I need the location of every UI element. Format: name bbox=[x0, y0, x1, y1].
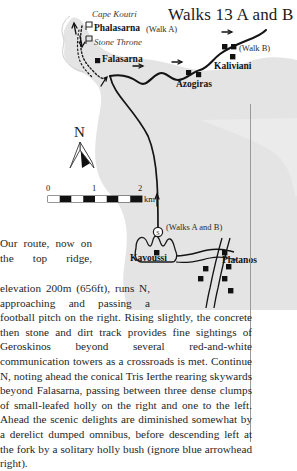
scale-unit-label: km bbox=[144, 195, 155, 204]
scale-tick-0: 0 bbox=[46, 184, 50, 193]
map-label-walk-b: (Walk B) bbox=[239, 44, 270, 53]
map-label-stone-throne: Stone Throne bbox=[94, 38, 142, 47]
map-label-phalasarna: Phalasarna bbox=[94, 24, 140, 34]
map-label-walks-a-and-b: (Walks A and B) bbox=[166, 223, 222, 232]
map-label-azogiras: Azogiras bbox=[176, 80, 212, 90]
route-description-text: Our route, now on the top ridge, elevati… bbox=[0, 236, 252, 471]
page-title: Walks 13 A and B bbox=[168, 6, 294, 23]
scale-tick-2: 2 bbox=[138, 184, 142, 193]
scale-tick-1: 1 bbox=[92, 184, 96, 193]
map-label-kaliviani: Kaliviani bbox=[214, 62, 251, 72]
map-label-walk-a: (Walk A) bbox=[146, 25, 177, 34]
map-label-cape-koutri: Cape Koutri bbox=[92, 10, 137, 19]
map-label-falasarna: Falasarna bbox=[102, 55, 143, 65]
compass-north-label: N bbox=[74, 125, 85, 140]
